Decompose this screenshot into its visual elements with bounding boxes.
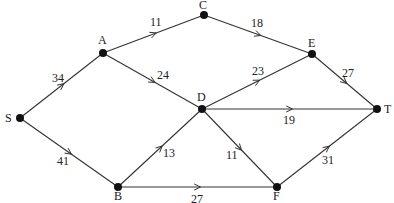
edge-weight-label: 19: [283, 113, 295, 127]
node-label: C: [199, 0, 207, 12]
edge-weight-label: 27: [191, 192, 203, 203]
edge-weight-label: 18: [251, 16, 263, 30]
edge-s-b: 41: [20, 118, 118, 187]
edge-weight-label: 11: [226, 148, 238, 162]
node-dot: [99, 49, 107, 57]
edge-s-a: 34: [20, 53, 103, 118]
edge-weight-label: 27: [342, 66, 354, 80]
edge-line: [312, 54, 377, 109]
network-flow-diagram: 344111241823271913112731 SABCDEFT: [0, 0, 394, 203]
edge-d-f: 11: [202, 109, 277, 187]
node-dot: [198, 105, 206, 113]
node-label: B: [114, 189, 122, 203]
edge-b-d: 13: [118, 109, 202, 187]
edge-line: [202, 109, 277, 187]
node-f: F: [273, 183, 281, 203]
edge-weight-label: 13: [163, 146, 175, 160]
edge-weight-label: 23: [252, 64, 264, 78]
node-c: C: [199, 0, 208, 19]
node-label: D: [197, 90, 206, 104]
edge-weight-label: 31: [322, 153, 334, 167]
node-label: S: [5, 111, 12, 125]
node-dot: [16, 114, 24, 122]
node-label: F: [273, 189, 280, 203]
edge-a-d: 24: [103, 53, 202, 109]
edge-d-e: 23: [202, 54, 312, 109]
node-dot: [200, 11, 208, 19]
node-label: A: [98, 33, 107, 47]
node-b: B: [114, 183, 122, 203]
node-a: A: [98, 33, 107, 57]
edge-b-f: 27: [118, 184, 277, 203]
edge-a-c: 11: [103, 15, 204, 53]
node-dot: [308, 50, 316, 58]
edge-d-t: 19: [202, 106, 377, 127]
edge-line: [103, 53, 202, 109]
edge-line: [118, 109, 202, 187]
edge-e-t: 27: [312, 54, 377, 109]
node-label: E: [308, 36, 315, 50]
node-e: E: [308, 36, 316, 58]
node-s: S: [5, 111, 24, 125]
node-dot: [373, 105, 381, 113]
node-t: T: [373, 102, 392, 116]
graph-canvas: 344111241823271913112731 SABCDEFT: [0, 0, 394, 203]
node-label: T: [384, 102, 392, 116]
edge-line: [20, 118, 118, 187]
edge-weight-label: 11: [150, 15, 162, 29]
edge-line: [20, 53, 103, 118]
nodes-layer: SABCDEFT: [5, 0, 392, 203]
edge-weight-label: 41: [57, 154, 69, 168]
node-d: D: [197, 90, 206, 113]
edge-weight-label: 24: [157, 68, 169, 82]
edge-line: [202, 54, 312, 109]
edge-weight-label: 34: [52, 71, 64, 85]
edge-c-e: 18: [204, 15, 312, 54]
